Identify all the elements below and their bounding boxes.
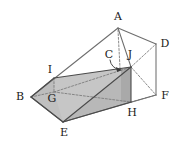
vertex-label-J: J <box>127 48 132 61</box>
edge-J-F <box>131 67 156 95</box>
figure-canvas: A B C D E F G H I J <box>0 0 176 145</box>
edge-J-D <box>131 44 156 67</box>
vertex-label-E: E <box>60 126 68 139</box>
vertex-label-H: H <box>127 106 137 119</box>
vertex-label-D: D <box>161 37 170 50</box>
vertex-label-F: F <box>161 89 169 102</box>
edge-A-D <box>118 28 156 44</box>
vertex-label-G: G <box>48 92 57 105</box>
vertex-label-I: I <box>48 63 52 76</box>
shaded-faces <box>31 67 131 122</box>
vertex-label-A: A <box>113 10 123 23</box>
geometry-figure: A B C D E F G H I J <box>0 0 176 145</box>
vertex-label-C: C <box>105 48 113 61</box>
edge-A-C-vertical <box>118 30 120 68</box>
vertex-label-B: B <box>16 90 24 103</box>
face-JH-right <box>121 67 131 102</box>
